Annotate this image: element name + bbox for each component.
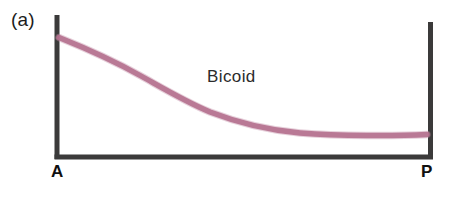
bicoid-curve (59, 38, 427, 136)
figure-container: (a) Bicoid A P (0, 0, 454, 215)
x-axis-tick-label-anterior: A (51, 163, 63, 180)
series-label-bicoid: Bicoid (207, 68, 256, 85)
x-axis-tick-label-posterior: P (421, 163, 432, 180)
plot-area (0, 0, 454, 215)
